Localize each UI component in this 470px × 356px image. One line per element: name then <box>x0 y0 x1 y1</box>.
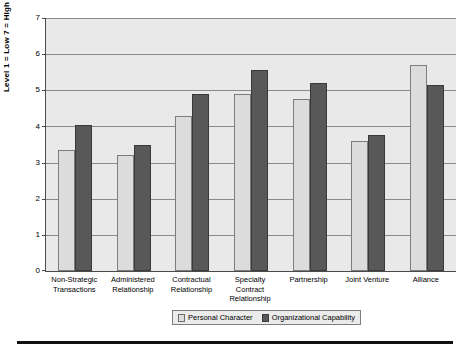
y-axis-tick-labels: 7 6 5 4 3 2 1 0 <box>22 12 40 277</box>
y-tick-6: 6 <box>22 49 40 59</box>
bar-personal-character <box>175 116 192 271</box>
bar-group <box>339 18 398 271</box>
chart-legend: Personal Character Organizational Capabi… <box>172 310 361 325</box>
y-axis-title: Level 1 = Low 7 = High <box>2 0 11 92</box>
bar-group <box>163 18 222 271</box>
bar-personal-character <box>293 99 310 271</box>
bar-organizational-capability <box>192 94 209 271</box>
x-axis-label: Administered Relationship <box>104 275 163 304</box>
bar-personal-character <box>410 65 427 271</box>
legend-item-organizational-capability: Organizational Capability <box>262 313 355 322</box>
y-tick-0: 0 <box>22 266 40 276</box>
bar-chart: Level 1 = Low 7 = High 7 6 5 4 3 2 1 0 N… <box>0 0 470 356</box>
legend-label-personal-character: Personal Character <box>188 313 253 322</box>
y-tick-1: 1 <box>22 230 40 240</box>
legend-swatch-icon-personal-character <box>178 314 185 322</box>
bar-personal-character <box>351 141 368 271</box>
bar-group <box>105 18 164 271</box>
bar-organizational-capability <box>134 145 151 272</box>
plot-area <box>45 18 456 272</box>
bar-group <box>222 18 281 271</box>
bar-group <box>397 18 456 271</box>
bar-organizational-capability <box>310 83 327 271</box>
y-tick-3: 3 <box>22 158 40 168</box>
bar-personal-character <box>117 155 134 271</box>
x-axis-label: Specialty Contract Relationship <box>221 275 280 304</box>
x-axis-label: Contractual Relationship <box>162 275 221 304</box>
bar-personal-character <box>58 150 75 271</box>
x-axis-category-labels: Non-Strategic TransactionsAdministered R… <box>45 275 455 304</box>
bar-organizational-capability <box>368 135 385 271</box>
x-axis-label: Non-Strategic Transactions <box>45 275 104 304</box>
x-axis-label: Partnership <box>279 275 338 304</box>
y-tick-2: 2 <box>22 194 40 204</box>
y-tick-5: 5 <box>22 85 40 95</box>
bar-group <box>46 18 105 271</box>
legend-item-personal-character: Personal Character <box>178 313 253 322</box>
legend-label-organizational-capability: Organizational Capability <box>272 313 355 322</box>
bar-organizational-capability <box>427 85 444 271</box>
bar-organizational-capability <box>75 125 92 271</box>
bar-organizational-capability <box>251 70 268 271</box>
x-axis-label: Alliance <box>396 275 455 304</box>
y-tick-7: 7 <box>22 13 40 23</box>
x-axis-label: Joint Venture <box>338 275 397 304</box>
y-tick-4: 4 <box>22 122 40 132</box>
legend-swatch-icon-organizational-capability <box>262 314 269 322</box>
bar-group <box>280 18 339 271</box>
bar-groups <box>46 18 456 271</box>
bottom-divider <box>17 341 453 344</box>
bar-personal-character <box>234 94 251 271</box>
